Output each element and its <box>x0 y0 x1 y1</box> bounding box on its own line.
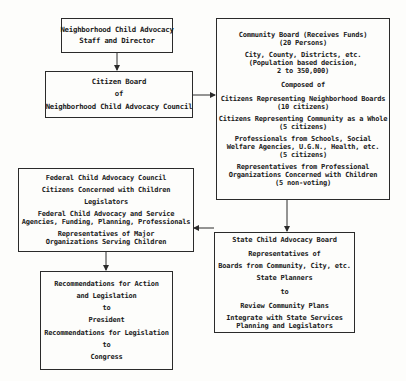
box-text: Neighborhood Child Advocacy Council <box>46 103 193 112</box>
member-line: Organizations Concerned with Children <box>229 171 378 179</box>
box-text: State Planners <box>256 274 312 282</box>
state-board-box: State Child Advocacy Board Representativ… <box>214 232 355 333</box>
box-text: and Legislation <box>76 290 136 302</box>
federal-council-box: Federal Child Advocacy Council Citizens … <box>18 168 194 252</box>
box-text: Legislators <box>84 198 128 206</box>
box-text: Recommendations for Legislation <box>44 327 168 339</box>
box-text: (Population based decision, <box>249 59 357 67</box>
member-line: Welfare Agencies, U.G.N., Health, etc. <box>227 143 380 151</box>
box-text: Neighborhood Child Advocacy <box>60 26 173 35</box>
box-text: Congress <box>90 351 122 363</box>
member-line: Representatives from Professional <box>237 163 369 171</box>
box-text: to <box>280 288 288 296</box>
box-text: Planning and Legislators <box>236 322 332 330</box>
box-text: Federal Child Advocacy and Service <box>38 210 175 218</box>
citizen-board-box: Citizen Board of Neighborhood Child Advo… <box>45 71 193 118</box>
member-line: Professionals from Schools, Social <box>235 135 372 143</box>
box-text: Recommendations for Action <box>54 278 158 290</box>
community-board-box: Community Board (Receives Funds) (20 Per… <box>216 18 390 200</box>
box-text: Staff and Director <box>79 37 154 46</box>
box-text: Agencies, Funding, Planning, Professiona… <box>22 218 191 226</box>
box-text: Boards from Community, City, etc. <box>218 262 350 270</box>
recommendations-box: Recommendations for Action and Legislati… <box>40 271 173 370</box>
box-title: Citizen Board <box>92 78 147 87</box>
staff-director-box: Neighborhood Child Advocacy Staff and Di… <box>61 18 173 53</box>
member-line: (10 citizens) <box>277 103 329 111</box>
box-text: President <box>88 314 124 326</box>
box-text: of <box>115 90 123 99</box>
box-text: 2 to 350,000) <box>277 67 329 75</box>
member-line: (5 citizens) <box>279 123 327 131</box>
box-text: Composed of <box>281 81 325 89</box>
box-text: to <box>102 339 110 351</box>
member-line: Citizens Representing Community as a Who… <box>219 115 388 123</box>
box-text: City, County, Districts, etc. <box>245 51 361 59</box>
box-text: Representatives of <box>248 250 320 258</box>
box-text: Organizations Serving Children <box>46 238 166 246</box>
box-title: State Child Advocacy Board <box>232 236 336 244</box>
box-title: Federal Child Advocacy Council <box>46 174 166 182</box>
box-text: (20 Persons) <box>279 39 327 47</box>
box-text: Review Community Plans <box>240 302 328 310</box>
member-line: Citizens Representing Neighborhood Board… <box>221 95 386 103</box>
member-line: (5 citizens) <box>279 151 327 159</box>
box-title: Community Board (Receives Funds) <box>239 31 367 39</box>
box-text: Integrate with State Services <box>226 314 342 322</box>
box-text: Representatives of Major <box>58 230 154 238</box>
box-text: to <box>102 302 110 314</box>
box-text: Citizens Concerned with Children <box>42 186 170 194</box>
member-line: (5 non-voting) <box>275 179 331 187</box>
